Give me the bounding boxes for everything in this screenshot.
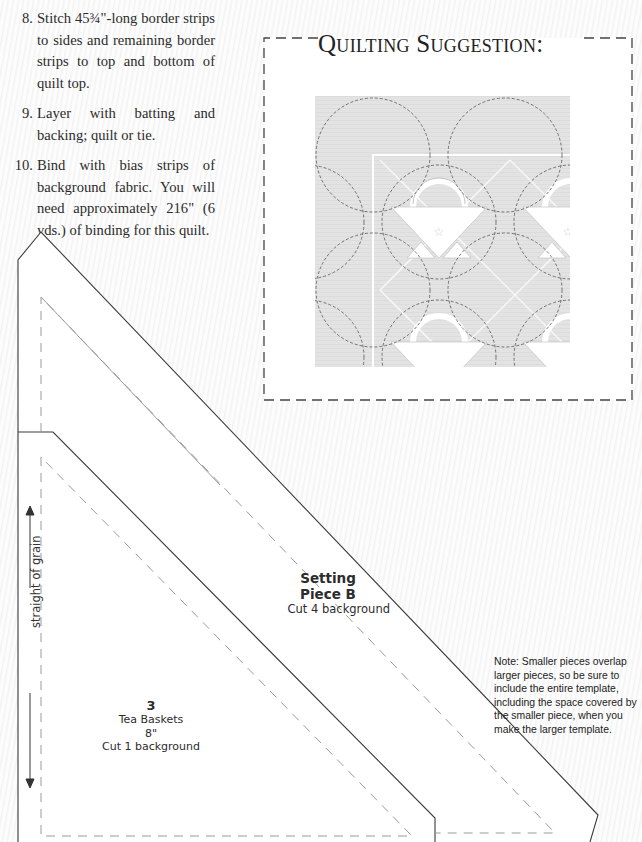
template-note: Note: Smaller pieces overlap larger piec… (494, 655, 642, 737)
svg-text:☆: ☆ (434, 225, 445, 239)
setting-piece-title-1: Setting (258, 570, 398, 586)
grain-label: straight of grain (29, 535, 43, 628)
piece-3-label: 3 Tea Baskets 8" Cut 1 background (90, 698, 212, 754)
piece-size: 8" (90, 727, 212, 741)
setting-piece-cut: Cut 4 background (258, 602, 398, 616)
setting-piece-title-2: Piece B (258, 586, 398, 602)
piece-cut: Cut 1 background (90, 740, 212, 754)
piece-pattern: Tea Baskets (90, 713, 212, 727)
setting-piece-b-label: Setting Piece B Cut 4 background (258, 570, 398, 616)
piece-number: 3 (90, 698, 212, 713)
quilting-suggestion-title: Quilting Suggestion: (318, 30, 543, 58)
